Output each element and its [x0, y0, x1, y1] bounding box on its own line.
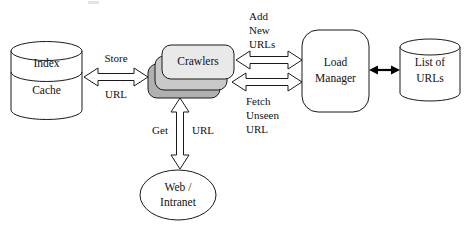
manager-list-head-left [369, 66, 378, 75]
crawlers-stack: Crawlers [148, 45, 234, 98]
store-url-block-arrow [84, 68, 148, 86]
store-url-label: URL [105, 88, 127, 100]
fetch-url-label: URL [246, 123, 268, 135]
add-new-urls-block-arrow [236, 51, 302, 69]
get-url-block-arrow [171, 98, 189, 169]
edge-manager-list [369, 66, 400, 75]
intranet-label: Intranet [160, 196, 197, 208]
index-cache-store: Index Cache [11, 42, 82, 120]
manager-list-head-right [391, 66, 400, 75]
edge-store-url: Store URL [84, 52, 148, 100]
list-of-urls-store: List of URLs [400, 39, 460, 101]
list-of-label: List of [415, 56, 446, 68]
get-label: Get [152, 124, 168, 136]
crawler-architecture-diagram: Index Cache Store URL Crawlers Add New U… [0, 0, 470, 228]
new-label: New [249, 24, 270, 36]
load-label: Load [324, 56, 348, 68]
urls-label: URLs [249, 38, 275, 50]
get-url-label: URL [192, 124, 214, 136]
manager-label: Manager [315, 72, 356, 85]
load-manager: Load Manager [302, 30, 369, 112]
list-urls-label: URLs [416, 72, 444, 84]
edge-get-url: Get URL [152, 98, 214, 169]
list-of-urls-top-ellipse [400, 39, 460, 55]
store-label: Store [104, 52, 127, 64]
add-label: Add [249, 10, 268, 22]
web-label: Web / [165, 181, 193, 193]
web-intranet: Web / Intranet [140, 170, 216, 220]
edge-add-new-urls: Add New URLs [236, 10, 302, 69]
unseen-label: Unseen [246, 109, 279, 121]
index-label: Index [33, 57, 59, 69]
edge-fetch-unseen-url: Fetch Unseen URL [232, 73, 302, 135]
fetch-label: Fetch [246, 95, 271, 107]
cache-label: Cache [32, 84, 61, 96]
fetch-unseen-url-block-arrow [232, 73, 302, 91]
crawlers-label: Crawlers [177, 55, 219, 67]
diagram-canvas: Index Cache Store URL Crawlers Add New U… [0, 0, 470, 228]
